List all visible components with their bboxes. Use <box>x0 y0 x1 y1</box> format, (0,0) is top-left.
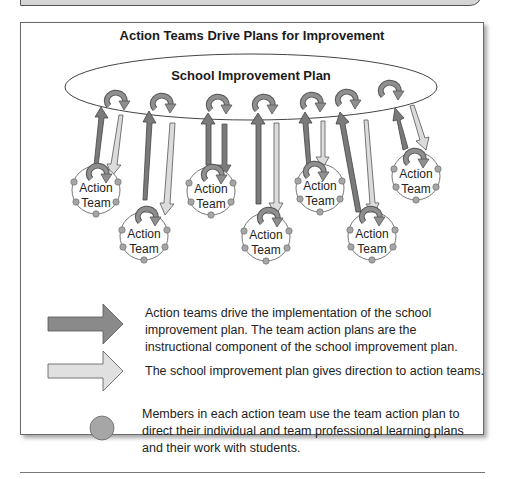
action-team-5: Action Team <box>295 164 345 215</box>
action-team-3: Action Team <box>186 167 236 218</box>
action-team-1: Action Team <box>71 166 121 217</box>
svg-text:Team: Team <box>305 194 334 208</box>
legend-text-member-circle: Members in each action team use the team… <box>142 406 464 457</box>
svg-text:Action: Action <box>79 181 112 195</box>
svg-text:Action: Action <box>355 227 388 241</box>
svg-text:Action: Action <box>127 227 160 241</box>
legend-light-arrow-icon <box>48 351 123 391</box>
center-label: School Improvement Plan <box>171 68 331 83</box>
bottom-divider <box>20 472 485 473</box>
svg-text:Team: Team <box>81 196 110 210</box>
svg-text:Team: Team <box>251 243 280 257</box>
svg-text:Team: Team <box>129 242 158 256</box>
dark-arrows <box>94 107 408 212</box>
action-team-6: Action Team <box>347 209 398 263</box>
legend-dark-arrow-icon <box>48 304 123 344</box>
legend-text-light-arrow: The school improvement plan gives direct… <box>145 363 484 380</box>
legend-text-dark-arrow: Action teams drive the implementation of… <box>145 305 458 356</box>
action-team-2: Action Team <box>119 209 170 263</box>
svg-text:Action: Action <box>194 182 227 196</box>
action-team-4: Action Team <box>241 210 292 264</box>
svg-text:Team: Team <box>401 182 430 196</box>
svg-text:Team: Team <box>357 242 386 256</box>
svg-text:Action: Action <box>249 228 282 242</box>
svg-text:Action: Action <box>303 179 336 193</box>
svg-text:Team: Team <box>196 197 225 211</box>
svg-text:Action: Action <box>399 167 432 181</box>
legend-member-circle-icon <box>90 416 114 440</box>
action-team-7: Action Team <box>391 151 441 203</box>
curl-arrows <box>107 83 404 114</box>
